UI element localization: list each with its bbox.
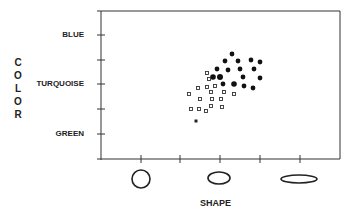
filled-circle-points [210, 52, 262, 91]
chart-canvas [0, 0, 355, 217]
x-tick-shape-icons [132, 170, 317, 188]
ellipse-shape-icon [208, 172, 230, 184]
plot-frame [97, 11, 340, 160]
circle-shape-icon [132, 170, 150, 188]
small-filled-points [195, 120, 198, 123]
elongated-ellipse-shape-icon [281, 175, 317, 183]
